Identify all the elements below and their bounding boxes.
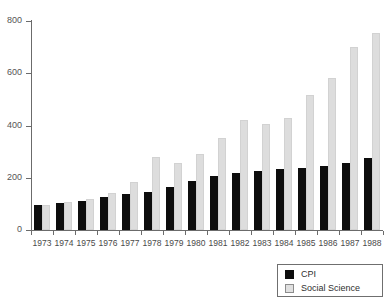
bar-social-science — [64, 202, 72, 230]
x-tick-label: 1974 — [53, 238, 75, 249]
x-tick-mark — [229, 231, 230, 235]
bar-cpi — [78, 201, 86, 230]
bar-social-science — [108, 193, 116, 230]
legend-item-cpi[interactable]: CPI — [285, 268, 316, 280]
bar-cpi — [166, 187, 174, 230]
x-axis-labels: 1973197419751976197719781979198019811982… — [31, 238, 383, 250]
bar-social-science — [328, 78, 336, 230]
x-tick-mark — [141, 231, 142, 235]
bar-group — [210, 21, 227, 230]
bar-cpi — [320, 166, 328, 230]
bar-cpi — [34, 205, 42, 230]
x-tick-label: 1984 — [273, 238, 295, 249]
y-tick-label: 800 — [7, 16, 22, 25]
y-tick-label: 400 — [7, 121, 22, 130]
x-tick-mark — [273, 231, 274, 235]
bar-group — [144, 21, 161, 230]
x-tick-mark — [75, 231, 76, 235]
black-square-icon — [285, 270, 294, 279]
bar-cpi — [100, 197, 108, 230]
bar-cpi — [56, 203, 64, 230]
x-tick-label: 1975 — [75, 238, 97, 249]
chart-legend: CPI Social Science — [277, 264, 383, 297]
bar-social-science — [372, 33, 380, 230]
x-tick-mark — [163, 231, 164, 235]
bar-group — [254, 21, 271, 230]
y-tick-label: 600 — [7, 68, 22, 77]
bar-social-science — [130, 182, 138, 230]
bar-social-science — [306, 95, 314, 230]
x-tick-label: 1987 — [339, 238, 361, 249]
x-tick-mark — [361, 231, 362, 235]
x-tick-label: 1980 — [185, 238, 207, 249]
bar-social-science — [284, 118, 292, 230]
bar-social-science — [262, 124, 270, 230]
legend-item-label: Social Science — [301, 283, 360, 293]
bar-cpi — [144, 192, 152, 230]
bar-cpi — [254, 171, 262, 230]
bar-group — [364, 21, 381, 230]
x-tick-label: 1983 — [251, 238, 273, 249]
x-tick-label: 1978 — [141, 238, 163, 249]
x-tick-label: 1977 — [119, 238, 141, 249]
bar-social-science — [196, 154, 204, 230]
x-tick-mark — [53, 231, 54, 235]
bar-social-science — [350, 47, 358, 230]
x-tick-label: 1976 — [97, 238, 119, 249]
bar-social-science — [152, 157, 160, 230]
x-tick-mark — [119, 231, 120, 235]
bar-group — [34, 21, 51, 230]
legend-item-label: CPI — [301, 269, 316, 279]
x-tick-label: 1979 — [163, 238, 185, 249]
x-tick-mark — [339, 231, 340, 235]
bar-group — [232, 21, 249, 230]
bar-group — [188, 21, 205, 230]
x-tick-mark — [185, 231, 186, 235]
bar-group — [78, 21, 95, 230]
chart-title — [0, 0, 391, 6]
bar-cpi — [232, 173, 240, 230]
x-tick-label: 1985 — [295, 238, 317, 249]
bar-cpi — [276, 169, 284, 230]
bar-social-science — [86, 199, 94, 230]
bar-group — [100, 21, 117, 230]
bar-group — [276, 21, 293, 230]
legend-item-social-science[interactable]: Social Science — [285, 282, 360, 294]
x-tick-mark — [207, 231, 208, 235]
bar-social-science — [42, 205, 50, 230]
bar-cpi — [188, 181, 196, 230]
bar-group — [342, 21, 359, 230]
x-tick-label: 1973 — [31, 238, 53, 249]
x-tick-mark — [31, 231, 32, 235]
light-gray-square-icon — [285, 284, 294, 293]
bar-group — [166, 21, 183, 230]
x-tick-mark — [295, 231, 296, 235]
bar-cpi — [122, 194, 130, 230]
plot-area — [31, 21, 383, 230]
bar-social-science — [218, 138, 226, 230]
bar-chart: 0200400600800 19731974197519761977197819… — [0, 0, 391, 303]
bar-group — [320, 21, 337, 230]
x-tick-label: 1982 — [229, 238, 251, 249]
bar-group — [56, 21, 73, 230]
bar-cpi — [342, 163, 350, 230]
x-tick-label: 1981 — [207, 238, 229, 249]
bar-social-science — [174, 163, 182, 230]
x-tick-label: 1986 — [317, 238, 339, 249]
x-tick-label: 1988 — [361, 238, 383, 249]
bar-cpi — [364, 158, 372, 230]
x-tick-mark — [251, 231, 252, 235]
x-tick-mark — [317, 231, 318, 235]
bar-group — [122, 21, 139, 230]
bar-group — [298, 21, 315, 230]
bar-cpi — [298, 168, 306, 230]
y-tick-label: 200 — [7, 173, 22, 182]
x-tick-mark — [383, 231, 384, 235]
y-tick-label: 0 — [17, 225, 22, 234]
bar-social-science — [240, 120, 248, 231]
x-tick-mark — [97, 231, 98, 235]
bar-cpi — [210, 176, 218, 230]
